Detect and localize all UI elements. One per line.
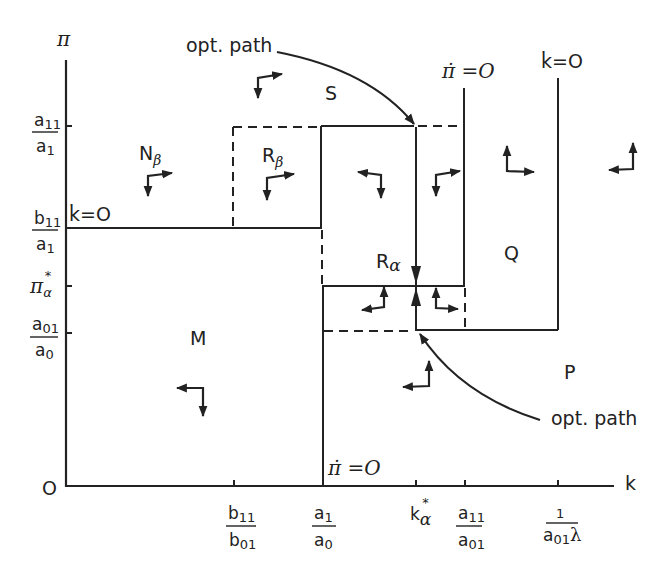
x-axis-label: k bbox=[625, 472, 636, 494]
svg-text:a1: a1 bbox=[314, 503, 333, 525]
x-label-b11-b01: b11 b01 bbox=[226, 503, 256, 552]
pi-dot-zero-label-top: π̇ =O bbox=[441, 59, 495, 83]
region-Q: Q bbox=[504, 242, 519, 264]
svg-text:1: 1 bbox=[556, 506, 564, 521]
opt-path-label-top: opt. path bbox=[186, 34, 272, 56]
phase-arrow-far-right bbox=[609, 143, 633, 170]
region-M: M bbox=[190, 327, 206, 349]
phase-arrow-N-beta bbox=[148, 173, 172, 196]
arrow-down-icon bbox=[411, 266, 421, 284]
x-label-one-a01-lambda: 1 a01λ bbox=[543, 506, 581, 547]
origin-label: O bbox=[42, 477, 57, 499]
svg-text:b11: b11 bbox=[34, 208, 61, 230]
svg-text:a0: a0 bbox=[35, 340, 54, 362]
svg-text:a1: a1 bbox=[36, 234, 55, 256]
region-P: P bbox=[564, 361, 575, 383]
svg-text:a1: a1 bbox=[36, 136, 55, 158]
phase-arrow-S bbox=[258, 74, 282, 98]
phase-diagram: π k O a11 a1 b11 a1 πα* a01 a0 bbox=[0, 0, 672, 572]
region-labels: S Nβ Rβ Rα Q M P bbox=[139, 82, 575, 383]
svg-text:a01: a01 bbox=[32, 314, 59, 336]
phase-arrow-R-alpha-right bbox=[436, 288, 458, 309]
svg-text:πα*: πα* bbox=[29, 268, 52, 300]
opt-path-label-bottom: opt. path bbox=[551, 407, 637, 429]
opt-path-curve-bottom bbox=[420, 334, 540, 420]
y-label-a01-a0: a01 a0 bbox=[30, 314, 59, 362]
svg-text:a0: a0 bbox=[314, 530, 333, 552]
svg-text:a01: a01 bbox=[458, 530, 485, 552]
svg-text:a01λ: a01λ bbox=[543, 524, 581, 547]
k-dot-zero-label-top: k̇=O bbox=[541, 50, 583, 72]
svg-text:kα*: kα* bbox=[410, 495, 432, 529]
phase-arrow-M bbox=[177, 388, 203, 416]
svg-text:b11: b11 bbox=[228, 503, 255, 525]
k-dot-zero-label-left: k̇=O bbox=[69, 203, 111, 225]
x-ticks: b11 b01 a1 a0 kα* a11 a01 1 a01λ bbox=[226, 480, 581, 552]
svg-text:a11: a11 bbox=[34, 110, 61, 132]
region-N-beta: Nβ bbox=[139, 142, 161, 168]
y-label-b11-a1: b11 a1 bbox=[32, 208, 61, 256]
phase-arrow-lower-mid bbox=[403, 361, 429, 387]
svg-text:a11: a11 bbox=[458, 503, 485, 525]
x-label-a1-a0: a1 a0 bbox=[312, 503, 336, 552]
phase-arrow-R-alpha-left bbox=[362, 287, 384, 310]
phase-arrow-upper-mid bbox=[358, 172, 381, 198]
axes: π k O bbox=[42, 27, 636, 499]
svg-text:b01: b01 bbox=[229, 530, 256, 552]
phase-arrow-R-beta bbox=[267, 174, 294, 200]
region-R-alpha: Rα bbox=[376, 250, 401, 275]
boundaries bbox=[66, 78, 558, 486]
phase-arrow-upper-right bbox=[436, 171, 460, 196]
isocline-labels: π̇ =O π̇ =O k̇=O k̇=O bbox=[69, 50, 583, 480]
opt-path-curves bbox=[277, 52, 540, 420]
y-label-a11-a1: a11 a1 bbox=[32, 110, 61, 158]
x-label-k-alpha-star: kα* bbox=[410, 495, 432, 529]
region-S: S bbox=[325, 82, 337, 104]
region-R-beta: Rβ bbox=[262, 144, 283, 170]
y-axis-label: π bbox=[56, 27, 71, 51]
x-label-a11-a01: a11 a01 bbox=[456, 503, 485, 552]
y-label-pi-alpha-star: πα* bbox=[29, 268, 52, 300]
pi-dot-zero-label-bottom: π̇ =O bbox=[327, 456, 381, 480]
arrow-up-icon bbox=[411, 288, 421, 306]
phase-arrow-Q bbox=[507, 146, 534, 172]
opt-path-curve-top bbox=[277, 52, 414, 124]
